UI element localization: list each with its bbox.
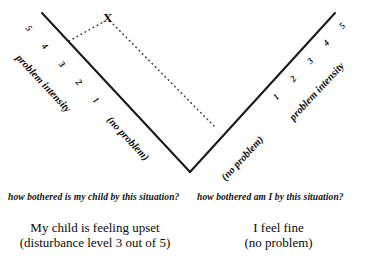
right-summary: I feel fine (no problem) xyxy=(190,221,367,251)
right-dotted-connector xyxy=(110,21,216,128)
right-question-caption: how bothered am I by this situation? xyxy=(197,192,344,202)
right-summary-line1: I feel fine xyxy=(253,220,304,235)
left-summary-line2: (disturbance level 3 out of 5) xyxy=(0,236,190,251)
right-summary-line2: (no problem) xyxy=(190,236,367,251)
left-summary: My child is feeling upset (disturbance l… xyxy=(0,221,190,251)
left-summary-line1: My child is feeling upset xyxy=(30,220,159,235)
left-dotted-connector xyxy=(69,21,105,41)
left-question-caption: how bothered is my child by this situati… xyxy=(8,192,179,202)
vee-diagram-figure: X 5 4 3 2 1 problem intensity (no proble… xyxy=(0,0,367,260)
x-marker: X xyxy=(103,11,112,24)
left-arm-line xyxy=(42,13,190,172)
